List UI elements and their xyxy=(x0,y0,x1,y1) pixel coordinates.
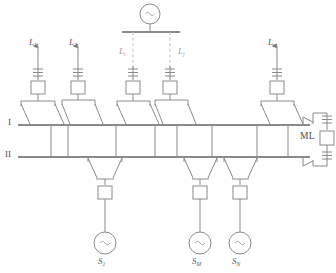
bus-tie-label-ml: ML xyxy=(300,132,315,142)
disconnect-ln-a xyxy=(261,104,270,124)
breaker-l2 xyxy=(71,81,85,94)
feeder-label-li: Li xyxy=(119,47,126,57)
breaker-l1 xyxy=(31,81,45,94)
disconnect-sn-b xyxy=(248,158,257,178)
top-ac-source xyxy=(140,4,160,32)
disconnect-li-b xyxy=(150,104,159,124)
breaker-ml xyxy=(320,131,334,145)
single-line-diagram xyxy=(0,0,336,273)
feeder-lj-bay xyxy=(155,66,196,124)
tie-disconnect-upper xyxy=(303,117,313,122)
feeder-l1-bay xyxy=(21,46,64,125)
feeder-label-lj: Lj xyxy=(178,47,185,57)
disconnect-s1-a xyxy=(88,158,97,178)
reactor-icon-li xyxy=(128,66,138,80)
breaker-li xyxy=(126,81,140,94)
feeder-label-l2: L2 xyxy=(69,38,77,48)
reactor-icon-l1 xyxy=(33,66,43,80)
dashed-connections xyxy=(133,32,170,70)
disconnect-l1-b xyxy=(55,104,64,124)
disconnect-sn-a xyxy=(224,158,233,178)
bus-label-ii: II xyxy=(5,150,11,159)
source-s1-bay xyxy=(88,158,122,254)
disconnect-sm-a xyxy=(184,158,193,178)
disconnect-li-a xyxy=(117,104,126,124)
reactor-icon-lj xyxy=(165,66,175,80)
breaker-ln xyxy=(270,81,284,94)
bus-label-i: I xyxy=(8,118,11,127)
source-label-s1: S1 xyxy=(98,257,105,267)
disconnect-sm-b xyxy=(208,158,217,178)
source-sn-bay xyxy=(224,158,257,254)
source-sm-bay xyxy=(184,158,217,254)
breaker-lj xyxy=(163,81,177,94)
reactor-icon-tie-upper xyxy=(322,113,332,130)
feeder-label-ln: Ln xyxy=(268,38,276,48)
breaker-sn xyxy=(233,186,247,199)
diagram-canvas: I II L1 L2 Li Lj Ln ML S1 SM SN xyxy=(0,0,336,273)
tie-disconnect-lower xyxy=(303,161,313,166)
bus-tap-links xyxy=(51,125,288,157)
feeder-li-bay xyxy=(117,66,159,124)
source-label-sm: SM xyxy=(192,257,201,267)
disconnect-l2-a xyxy=(62,104,70,124)
feeder-label-l1: L1 xyxy=(29,38,37,48)
breaker-s1 xyxy=(98,186,112,199)
reactor-icon-ln xyxy=(272,66,282,80)
disconnect-ln-b xyxy=(294,104,303,124)
reactor-icon-tie-lower xyxy=(322,145,332,166)
disconnect-lj-b xyxy=(188,104,196,124)
breaker-sm xyxy=(193,186,207,199)
disconnect-s1-b xyxy=(113,158,122,178)
feeder-ln-bay xyxy=(261,46,303,124)
reactor-icon-l2 xyxy=(73,66,83,80)
disconnect-l2-b xyxy=(95,104,103,124)
feeder-l2-bay xyxy=(62,46,103,124)
source-label-sn: SN xyxy=(232,257,240,267)
disconnect-lj-a xyxy=(155,104,163,124)
disconnect-l1-a xyxy=(21,104,30,124)
